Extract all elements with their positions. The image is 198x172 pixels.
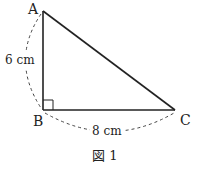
right-angle-mark bbox=[43, 100, 53, 110]
triangle-diagram: A B C 6 cm 8 cm 図 1 bbox=[0, 0, 198, 172]
vertex-label-b: B bbox=[33, 113, 43, 129]
edge-ac bbox=[43, 11, 175, 110]
measurement-ab: 6 cm bbox=[5, 53, 35, 67]
vertex-label-a: A bbox=[27, 1, 39, 17]
figure-caption: 図 1 bbox=[92, 148, 117, 163]
vertex-label-c: C bbox=[180, 112, 191, 128]
measurement-bc: 8 cm bbox=[92, 124, 122, 138]
